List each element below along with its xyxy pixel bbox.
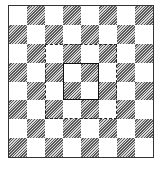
hatched-square: [81, 138, 99, 157]
hatched-square: [117, 25, 135, 44]
hatched-square: [99, 119, 117, 138]
light-square: [81, 44, 99, 63]
hatched-square: [45, 63, 63, 82]
light-square: [117, 119, 135, 138]
hatched-square: [135, 82, 153, 101]
light-square: [9, 6, 27, 25]
hatched-square: [45, 100, 63, 119]
light-square: [117, 82, 135, 101]
light-square: [27, 63, 45, 82]
light-square: [45, 82, 63, 101]
light-square: [27, 25, 45, 44]
light-square: [117, 6, 135, 25]
checkerboard-grid: [9, 6, 153, 157]
hatched-square: [117, 100, 135, 119]
hatched-square: [45, 25, 63, 44]
hatched-square: [63, 6, 81, 25]
hatched-square: [9, 100, 27, 119]
light-square: [9, 44, 27, 63]
light-square: [135, 100, 153, 119]
light-square: [135, 138, 153, 157]
light-square: [81, 119, 99, 138]
light-square: [45, 44, 63, 63]
checkerboard-frame: [8, 5, 154, 158]
light-square: [99, 100, 117, 119]
hatched-square: [81, 100, 99, 119]
light-square: [27, 138, 45, 157]
hatched-square: [81, 63, 99, 82]
light-square: [27, 100, 45, 119]
hatched-square: [27, 44, 45, 63]
light-square: [81, 82, 99, 101]
hatched-square: [9, 25, 27, 44]
hatched-square: [135, 119, 153, 138]
light-square: [135, 25, 153, 44]
light-square: [63, 63, 81, 82]
hatched-square: [63, 44, 81, 63]
hatched-square: [27, 6, 45, 25]
hatched-square: [45, 138, 63, 157]
hatched-square: [135, 6, 153, 25]
hatched-square: [81, 25, 99, 44]
hatched-square: [63, 82, 81, 101]
light-square: [45, 119, 63, 138]
light-square: [45, 6, 63, 25]
hatched-square: [99, 44, 117, 63]
light-square: [99, 138, 117, 157]
light-square: [117, 44, 135, 63]
hatched-square: [117, 138, 135, 157]
hatched-square: [117, 63, 135, 82]
light-square: [99, 25, 117, 44]
hatched-square: [99, 82, 117, 101]
hatched-square: [9, 63, 27, 82]
hatched-square: [99, 6, 117, 25]
light-square: [63, 25, 81, 44]
light-square: [81, 6, 99, 25]
hatched-square: [27, 82, 45, 101]
light-square: [99, 63, 117, 82]
hatched-square: [27, 119, 45, 138]
hatched-square: [135, 44, 153, 63]
light-square: [63, 138, 81, 157]
hatched-square: [9, 138, 27, 157]
light-square: [135, 63, 153, 82]
hatched-square: [63, 119, 81, 138]
light-square: [9, 119, 27, 138]
light-square: [9, 82, 27, 101]
light-square: [63, 100, 81, 119]
